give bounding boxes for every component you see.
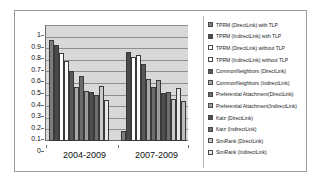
bar bbox=[104, 100, 109, 141]
y-axis-tick-label: 0.2 bbox=[31, 124, 41, 132]
bar-group bbox=[121, 25, 186, 141]
y-axis-tick-mark bbox=[41, 47, 44, 48]
legend-item[interactable]: Katz (IndirectLink) bbox=[208, 123, 306, 135]
y-axis-tick-label: 0.1 bbox=[31, 135, 41, 143]
x-axis-tick-mark bbox=[118, 145, 119, 148]
legend-swatch-icon bbox=[208, 150, 213, 155]
legend-item[interactable]: Katz (DirectLink) bbox=[208, 112, 306, 124]
chart-frame: 10.90.80.70.60.50.40.30.20.10 2004-20092… bbox=[14, 10, 307, 172]
legend-item[interactable]: CommonNeighbors (DirectLink) bbox=[208, 65, 306, 77]
y-axis-tick-label: 0.9 bbox=[31, 43, 41, 51]
legend-swatch-icon bbox=[208, 115, 213, 120]
legend-item[interactable]: TPRM (DirectLink) without TLP bbox=[208, 42, 306, 54]
legend-item[interactable]: TPRM (IndirectLink) without TLP bbox=[208, 54, 306, 66]
legend-item-label: Preferential Attachment(IndirectLink) bbox=[216, 103, 297, 109]
y-axis-tick-label: 0.5 bbox=[31, 89, 41, 97]
y-axis-tick-mark bbox=[41, 151, 44, 152]
y-axis-tick-label: 0.3 bbox=[31, 112, 41, 120]
legend-item[interactable]: Preferential Attachment(IndirectLink) bbox=[208, 100, 306, 112]
legend-swatch-icon bbox=[208, 22, 213, 27]
y-axis-tick-mark bbox=[41, 139, 44, 140]
legend-item[interactable]: Preferential Attachment(DirectLink) bbox=[208, 89, 306, 101]
legend-swatch-icon bbox=[208, 69, 213, 74]
legend-item-label: SimRank (IndirectLink) bbox=[216, 149, 267, 155]
legend-swatch-icon bbox=[208, 80, 213, 85]
legend-item[interactable]: TPRM (IndirectLink) with TLP bbox=[208, 31, 306, 43]
legend-swatch-icon bbox=[208, 57, 213, 62]
legend-item[interactable]: SimRank (IndirectLink) bbox=[208, 147, 306, 159]
y-axis-tick-mark bbox=[41, 128, 44, 129]
legend-item-label: TPRM (IndirectLink) with TLP bbox=[216, 33, 281, 39]
bar-group bbox=[49, 25, 109, 141]
legend-item-label: TPRM (DirectLink) with TLP bbox=[216, 22, 278, 28]
bar bbox=[181, 101, 186, 141]
x-axis-tick-mark bbox=[188, 145, 189, 148]
x-axis-tick-label: 2007-2009 bbox=[135, 150, 178, 160]
y-axis-tick-mark bbox=[41, 81, 44, 82]
legend-swatch-icon bbox=[208, 103, 213, 108]
legend-item-label: Katz (IndirectLink) bbox=[216, 126, 256, 132]
legend-swatch-icon bbox=[208, 45, 213, 50]
x-axis-tick-label: 2004-2009 bbox=[63, 150, 106, 160]
y-axis-tick-mark bbox=[41, 35, 44, 36]
y-axis-tick-mark bbox=[41, 105, 44, 106]
y-axis-tick-mark bbox=[41, 116, 44, 117]
legend-item[interactable]: TPRM (DirectLink) with TLP bbox=[208, 19, 306, 31]
y-axis-tick-label: 0.8 bbox=[31, 54, 41, 62]
y-axis: 10.90.80.70.60.50.40.30.20.10 bbox=[15, 21, 43, 145]
legend-swatch-icon bbox=[208, 34, 213, 39]
y-axis-tick-label: 0.7 bbox=[31, 66, 41, 74]
legend-item-label: Preferential Attachment(DirectLink) bbox=[216, 91, 294, 97]
x-axis-tick-mark bbox=[46, 145, 47, 148]
y-axis-tick-label: 0.6 bbox=[31, 77, 41, 85]
y-axis-tick-mark bbox=[41, 93, 44, 94]
y-axis-tick-mark bbox=[41, 70, 44, 71]
bars-layer bbox=[46, 25, 188, 141]
x-axis: 2004-20092007-2009 bbox=[45, 145, 190, 159]
legend-item-label: Katz (DirectLink) bbox=[216, 115, 253, 121]
y-axis-tick-label: 0.4 bbox=[31, 101, 41, 109]
legend-item-label: SimRank (DirectLink) bbox=[216, 138, 263, 144]
legend-item-label: CommonNeighbors (DirectLink) bbox=[216, 68, 286, 74]
legend-item[interactable]: CommonNeighbors (IndirectLink) bbox=[208, 77, 306, 89]
legend-swatch-icon bbox=[208, 127, 213, 132]
legend-item-label: TPRM (IndirectLink) without TLP bbox=[216, 57, 288, 63]
legend-item-label: TPRM (DirectLink) without TLP bbox=[216, 45, 285, 51]
legend-item[interactable]: SimRank (DirectLink) bbox=[208, 135, 306, 147]
legend-swatch-icon bbox=[208, 92, 213, 97]
chart-legend: TPRM (DirectLink) with TLPTPRM (Indirect… bbox=[203, 16, 306, 168]
legend-item-label: CommonNeighbors (IndirectLink) bbox=[216, 80, 289, 86]
legend-swatch-icon bbox=[208, 138, 213, 143]
y-axis-tick-mark bbox=[41, 58, 44, 59]
